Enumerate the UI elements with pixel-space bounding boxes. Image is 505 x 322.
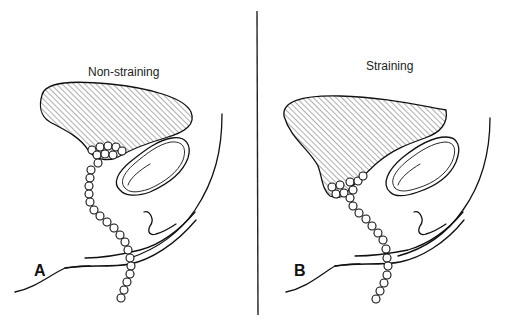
panel-b-caption: Straining: [366, 59, 413, 73]
panel-divider: [257, 11, 258, 315]
rectum-a: [144, 212, 176, 235]
panel-b: Straining: [284, 59, 490, 303]
bead-chain-b: [328, 172, 392, 303]
bladder-b: [284, 96, 447, 198]
panel-a-caption: Non-straining: [88, 65, 159, 79]
panel-a-label: A: [34, 262, 46, 279]
panel-b-label: B: [294, 262, 306, 279]
anatomical-figure: Non-straining: [0, 0, 505, 322]
rectum-b: [414, 212, 446, 235]
panel-a: Non-straining: [15, 65, 222, 302]
bead-chain-a: [85, 142, 135, 302]
